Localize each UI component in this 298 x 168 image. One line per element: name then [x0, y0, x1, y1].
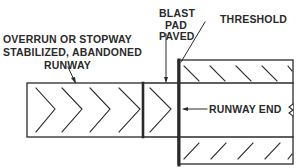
overrun-label-line1: OVERRUN OR STOPWAY: [3, 33, 132, 45]
hatch-mark: [211, 143, 226, 159]
overrun-label-line2: STABILIZED, ABANDONED: [3, 46, 142, 58]
runway-diagram: OVERRUN OR STOPWAY STABILIZED, ABANDONED…: [0, 0, 298, 168]
chevron: [62, 88, 82, 132]
hatch-mark: [238, 143, 253, 159]
hatch-mark: [236, 66, 251, 81]
chevron: [36, 88, 55, 132]
hatch-mark: [288, 66, 292, 71]
blast-pad-label-line1: BLAST: [159, 7, 195, 19]
chevron: [90, 88, 110, 132]
break-symbol: [289, 104, 293, 116]
blast-pad-chevron: [150, 88, 171, 132]
hatch-mark: [288, 154, 292, 159]
upper-hatch-marks: [184, 66, 292, 81]
hatch-mark: [184, 66, 199, 81]
lower-hatch-marks: [184, 143, 292, 159]
blast-pad-label-line3: PAVED: [159, 30, 195, 42]
chevron: [119, 88, 140, 132]
runway-end-arrowhead: [182, 107, 188, 111]
hatch-mark: [262, 66, 277, 81]
hatch-mark: [210, 66, 225, 81]
overrun-chevrons: [36, 88, 140, 132]
threshold-label: THRESHOLD: [220, 13, 287, 25]
blast-pad-arrowhead: [164, 77, 168, 83]
overrun-area: [27, 83, 143, 137]
hatch-mark: [184, 143, 199, 159]
runway-end-label: RUNWAY END: [209, 103, 282, 115]
hatch-mark: [265, 143, 280, 159]
overrun-label-line3: RUNWAY: [44, 59, 91, 71]
